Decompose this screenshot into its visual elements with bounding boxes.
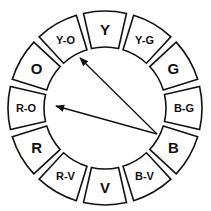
segment-label: O (31, 60, 43, 77)
segment-label: R (31, 139, 42, 156)
segment-label: R-V (56, 170, 76, 182)
segment-label: R-O (16, 102, 37, 114)
segment-label: Y-G (135, 34, 154, 46)
segment-label: B-V (135, 170, 155, 182)
color-wheel-diagram: YY-GGB-GBB-VVR-VRR-OOY-O (0, 0, 211, 211)
color-wheel-svg: YY-GGB-GBB-VVR-VRR-OOY-O (0, 0, 211, 211)
segments-group: YY-GGB-GBB-VVR-VRR-OOY-O (8, 11, 202, 205)
segment-label: Y (100, 21, 110, 38)
segment-label: Y-O (56, 34, 75, 46)
segment-label: V (100, 179, 110, 196)
arrows-group (56, 58, 157, 134)
segment-label: B-G (174, 102, 194, 114)
arrow-b-to-r-o (56, 106, 157, 134)
segment-label: G (168, 60, 180, 77)
segment-label: B (168, 139, 179, 156)
arrow-b-to-y-o (80, 58, 157, 134)
